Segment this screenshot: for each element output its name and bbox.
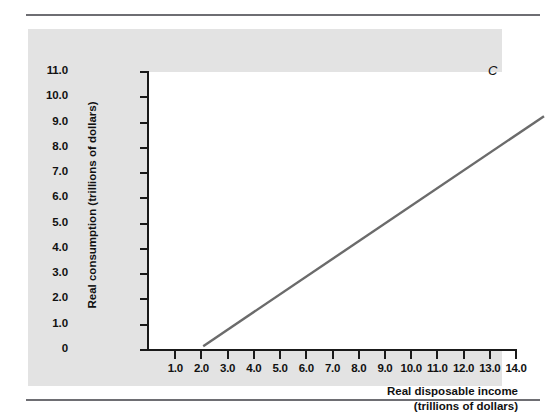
y-tick-label: 0 [8,342,68,354]
y-tick-label: 2.0 [8,291,68,303]
x-tick-mark [305,351,307,359]
y-tick-label: 6.0 [8,190,68,202]
y-tick-mark [140,273,148,275]
y-tick-label: 4.0 [8,241,68,253]
consumption-curve-label: C [488,63,497,78]
x-tick-mark [463,351,465,359]
x-tick-mark [515,351,517,359]
y-tick-label: 5.0 [8,216,68,228]
x-tick-mark [436,351,438,359]
y-tick-label: 3.0 [8,266,68,278]
y-tick-mark [140,197,148,199]
y-tick-label: 9.0 [8,115,68,127]
y-tick-mark [140,223,148,225]
y-tick-label: 8.0 [8,140,68,152]
top-divider-rule [26,14,540,16]
x-axis-title-line2: (trillions of dollars) [328,399,518,414]
y-tick-mark [140,71,148,73]
x-tick-mark [410,351,412,359]
x-tick-mark [174,351,176,359]
x-tick-mark [384,351,386,359]
x-axis-title: Real disposable income (trillions of dol… [328,384,518,414]
chart-panel: 01.02.03.04.05.06.07.08.09.010.011.0 1.0… [28,29,502,386]
plot-area [149,72,516,350]
x-tick-mark [227,351,229,359]
y-tick-label: 7.0 [8,165,68,177]
y-axis-line [147,71,149,351]
y-tick-mark [140,324,148,326]
y-tick-mark [140,172,148,174]
y-tick-mark [140,349,148,351]
x-tick-mark [489,351,491,359]
y-tick-mark [140,96,148,98]
y-tick-label: 1.0 [8,317,68,329]
x-tick-mark [279,351,281,359]
y-tick-mark [140,298,148,300]
y-tick-label: 11.0 [8,64,68,76]
x-tick-mark [253,351,255,359]
y-tick-mark [140,147,148,149]
x-axis-title-line1: Real disposable income [328,384,518,399]
y-tick-label: 10.0 [8,89,68,101]
x-tick-mark [200,351,202,359]
y-axis-title: Real consumption (trillions of dollars) [86,85,98,325]
x-tick-label: 14.0 [496,362,536,374]
y-tick-mark [140,248,148,250]
x-tick-mark [332,351,334,359]
x-tick-mark [358,351,360,359]
y-tick-mark [140,122,148,124]
